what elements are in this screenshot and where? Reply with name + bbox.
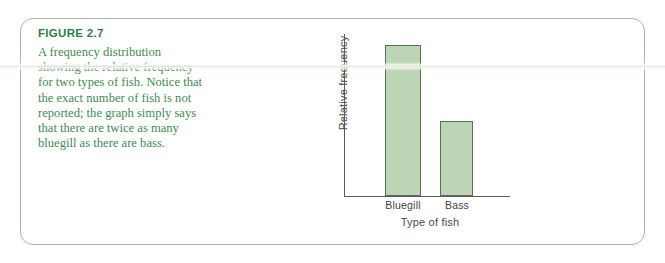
figure-number-label: FIGURE 2.7	[38, 27, 218, 39]
x-axis-line	[344, 196, 510, 197]
x-tick-label-bass: Bass	[438, 199, 476, 211]
figure-caption-block: FIGURE 2.7 A frequency distribution show…	[38, 27, 218, 151]
x-tick-label-bluegill: Bluegill	[378, 199, 428, 211]
figure-page: FIGURE 2.7 A frequency distribution show…	[0, 0, 665, 263]
bar-bluegill	[385, 45, 421, 196]
bar-chart: Relative frequency Bluegill Bass Type of…	[300, 25, 530, 230]
y-axis-label: Relative frequency	[337, 13, 349, 153]
x-axis-label: Type of fish	[360, 216, 500, 228]
y-axis-line	[344, 34, 345, 196]
figure-caption-text: A frequency distribution showing the rel…	[38, 45, 204, 151]
bar-bass	[440, 121, 473, 196]
